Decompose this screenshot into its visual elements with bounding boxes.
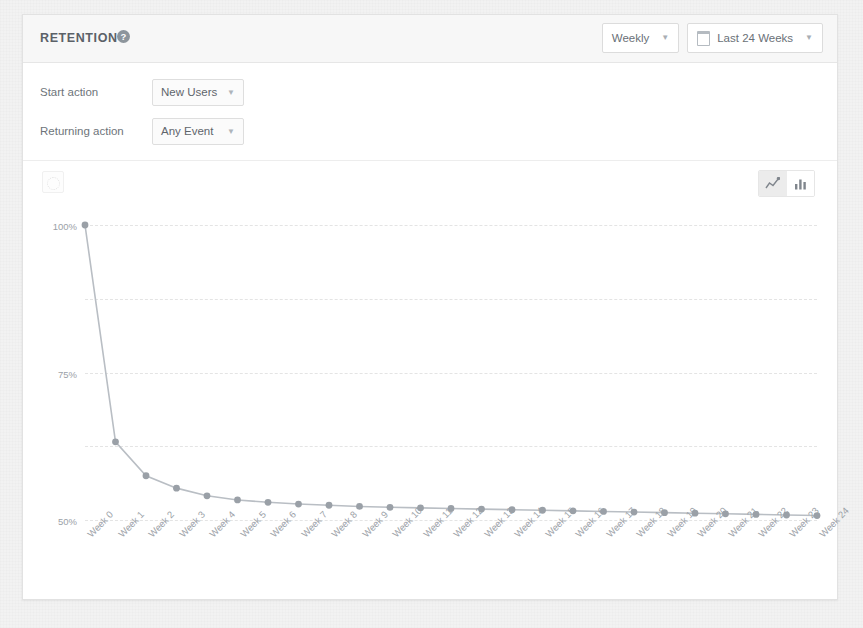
data-point[interactable] (234, 497, 241, 504)
y-axis-tick-label: 75% (58, 368, 77, 379)
plot-area: 100%75%50%25%0% (85, 225, 817, 520)
retention-card: RETENTION ? Weekly ▼ Last 24 Weeks ▼ Sta… (22, 14, 838, 600)
data-point[interactable] (265, 499, 272, 506)
y-axis-tick-label: 100% (53, 221, 77, 232)
start-action-select[interactable]: New Users ▼ (152, 79, 244, 106)
help-icon[interactable]: ? (117, 30, 130, 43)
start-action-label: Start action (40, 86, 152, 98)
granularity-value: Weekly (612, 32, 650, 44)
card-header: RETENTION ? Weekly ▼ Last 24 Weeks ▼ (23, 15, 837, 63)
returning-action-value: Any Event (161, 125, 213, 137)
data-point[interactable] (82, 222, 89, 229)
returning-action-select[interactable]: Any Event ▼ (152, 118, 244, 145)
filter-row-returning-action: Returning action Any Event ▼ (40, 116, 837, 146)
data-point[interactable] (356, 503, 363, 510)
chevron-down-icon: ▼ (227, 88, 235, 97)
y-axis-tick-label: 50% (58, 516, 77, 527)
bar-chart-icon[interactable] (786, 171, 814, 196)
page-title: RETENTION (40, 31, 118, 45)
line-chart-icon[interactable] (759, 171, 786, 196)
calendar-icon (697, 31, 710, 46)
grid-glyph (47, 177, 60, 190)
data-point[interactable] (326, 502, 333, 509)
data-point[interactable] (387, 504, 394, 511)
filter-panel: Start action New Users ▼ Returning actio… (23, 63, 837, 161)
granularity-select[interactable]: Weekly ▼ (602, 23, 679, 53)
retention-line-series (85, 225, 817, 520)
view-toggle-group (758, 170, 815, 197)
data-point[interactable] (143, 472, 150, 479)
series-line (85, 225, 817, 516)
date-range-select[interactable]: Last 24 Weeks ▼ (687, 23, 823, 53)
chevron-down-icon: ▼ (227, 127, 235, 136)
data-point[interactable] (173, 485, 180, 492)
data-point[interactable] (112, 438, 119, 445)
filter-row-start-action: Start action New Users ▼ (40, 77, 837, 107)
data-point[interactable] (204, 492, 211, 499)
chevron-down-icon: ▼ (805, 34, 813, 42)
data-point[interactable] (295, 501, 302, 508)
chevron-down-icon: ▼ (661, 34, 669, 42)
returning-action-label: Returning action (40, 125, 152, 137)
date-range-value: Last 24 Weeks (717, 32, 793, 44)
header-controls: Weekly ▼ Last 24 Weeks ▼ (602, 23, 823, 53)
chart-container: 100%75%50%25%0% Week 0Week 1Week 2Week 3… (23, 207, 837, 628)
x-axis-labels: Week 0Week 1Week 2Week 3Week 4Week 5Week… (85, 529, 817, 609)
start-action-value: New Users (161, 86, 217, 98)
grid-icon[interactable] (42, 171, 64, 193)
chart-toolbar (23, 161, 837, 207)
